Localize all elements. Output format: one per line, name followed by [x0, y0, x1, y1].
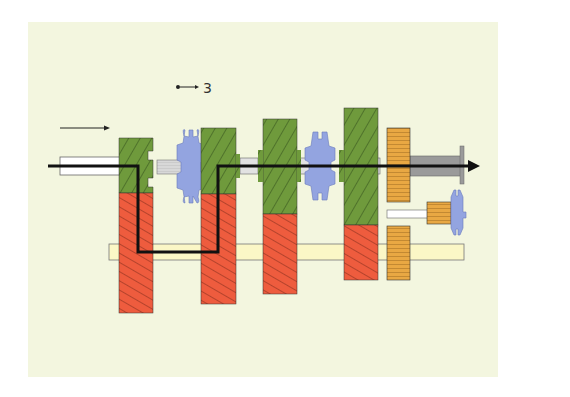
second-gear-pair [258, 119, 301, 294]
input-gear-pair [119, 138, 153, 313]
third-gear-pair [201, 128, 240, 304]
arrow-icon [195, 85, 199, 89]
gearbox-diagram: 3 [0, 0, 570, 397]
first-gear-pair [339, 108, 378, 280]
input-direction-arrow [60, 126, 110, 131]
reverse-synchronizer [451, 190, 466, 235]
gear-number-label: 3 [203, 80, 212, 96]
power-flow-arrowhead [468, 160, 480, 172]
reverse-gear-counter [387, 226, 410, 280]
dot-icon [176, 85, 180, 89]
gear-indicator: 3 [176, 80, 212, 96]
